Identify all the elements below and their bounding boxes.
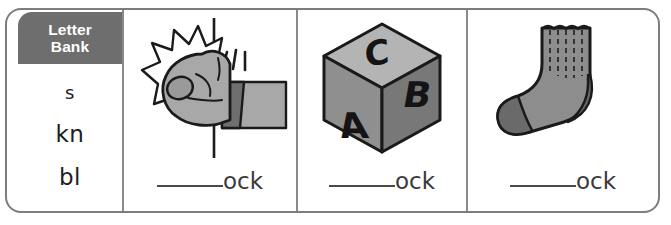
sock-illustration	[468, 12, 658, 162]
knocking-fist-svg	[126, 12, 294, 162]
write-in-blank-2[interactable]	[329, 185, 395, 187]
write-in-blank-3[interactable]	[510, 185, 576, 187]
letter-bank-title-line1: Letter	[48, 21, 92, 38]
abc-block-svg: C A B	[307, 12, 457, 162]
answer-blank-3[interactable]: ock	[468, 170, 658, 193]
worksheet-page: Letter Bank s kn bl	[0, 0, 671, 225]
picture-cell-2: C A B ock	[298, 10, 466, 211]
block-letter-top: C	[364, 31, 391, 75]
letter-bank-option-2[interactable]: kn	[56, 123, 85, 146]
abc-block-illustration: C A B	[298, 12, 466, 162]
letter-bank-option-3[interactable]: bl	[59, 166, 81, 189]
sock-svg	[478, 12, 648, 162]
answer-blank-2[interactable]: ock	[298, 170, 466, 193]
picture-cell-1: ock	[124, 10, 296, 211]
letter-bank: Letter Bank s kn bl	[5, 8, 122, 213]
letter-bank-header: Letter Bank	[18, 12, 122, 64]
write-in-blank-1[interactable]	[157, 185, 223, 187]
answer-blank-1[interactable]: ock	[124, 170, 296, 193]
word-ending-3: ock	[576, 170, 616, 193]
letter-bank-title-line2: Bank	[51, 38, 89, 55]
picture-cell-3: ock	[468, 10, 658, 211]
knocking-fist-illustration	[124, 12, 296, 162]
letter-bank-options: s kn bl	[18, 64, 122, 209]
word-ending-2: ock	[395, 170, 435, 193]
letter-bank-option-1[interactable]: s	[65, 84, 75, 102]
word-ending-1: ock	[223, 170, 263, 193]
